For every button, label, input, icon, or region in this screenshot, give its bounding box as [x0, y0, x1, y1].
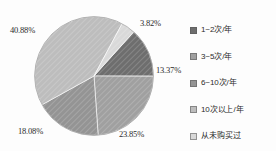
legend-item-6-10-times[interactable]: 6~10次/年	[190, 77, 274, 89]
pie-slice-texture	[94, 76, 153, 135]
legend-swatch-icon	[190, 80, 197, 87]
legend-swatch-icon	[190, 53, 197, 60]
pie-chart: 3.82% 13.37% 23.85% 18.08% 40.88% 1~2次/年…	[0, 0, 276, 151]
legend-item-label: 从未购买过	[201, 132, 241, 140]
slice-label-1-2-times: 13.37%	[156, 66, 181, 75]
pie-slices-texture	[35, 17, 154, 136]
legend-item-label: 6~10次/年	[201, 79, 237, 87]
legend-item-label: 1~2次/年	[201, 26, 232, 34]
legend-swatch-icon	[190, 133, 197, 140]
legend-item-label: 10次以上/年	[201, 106, 243, 114]
legend-swatch-icon	[190, 27, 197, 34]
legend-item-3-5-times[interactable]: 3~5次/年	[190, 51, 274, 63]
legend-item-10-plus-times[interactable]: 10次以上/年	[190, 104, 274, 116]
legend-item-never-purchased[interactable]: 从未购买过	[190, 130, 274, 142]
slice-label-10-plus-times: 40.88%	[10, 26, 35, 35]
legend-item-1-2-times[interactable]: 1~2次/年	[190, 24, 274, 36]
slice-label-3-5-times: 23.85%	[119, 130, 144, 139]
pie-svg	[34, 8, 154, 144]
slice-label-never-purchased: 3.82%	[140, 19, 161, 28]
slice-label-6-10-times: 18.08%	[18, 127, 43, 136]
legend-swatch-icon	[190, 106, 197, 113]
legend-item-label: 3~5次/年	[201, 53, 232, 61]
chart-legend: 1~2次/年 3~5次/年 6~10次/年 10次以上/年 从未购买过	[190, 24, 274, 142]
